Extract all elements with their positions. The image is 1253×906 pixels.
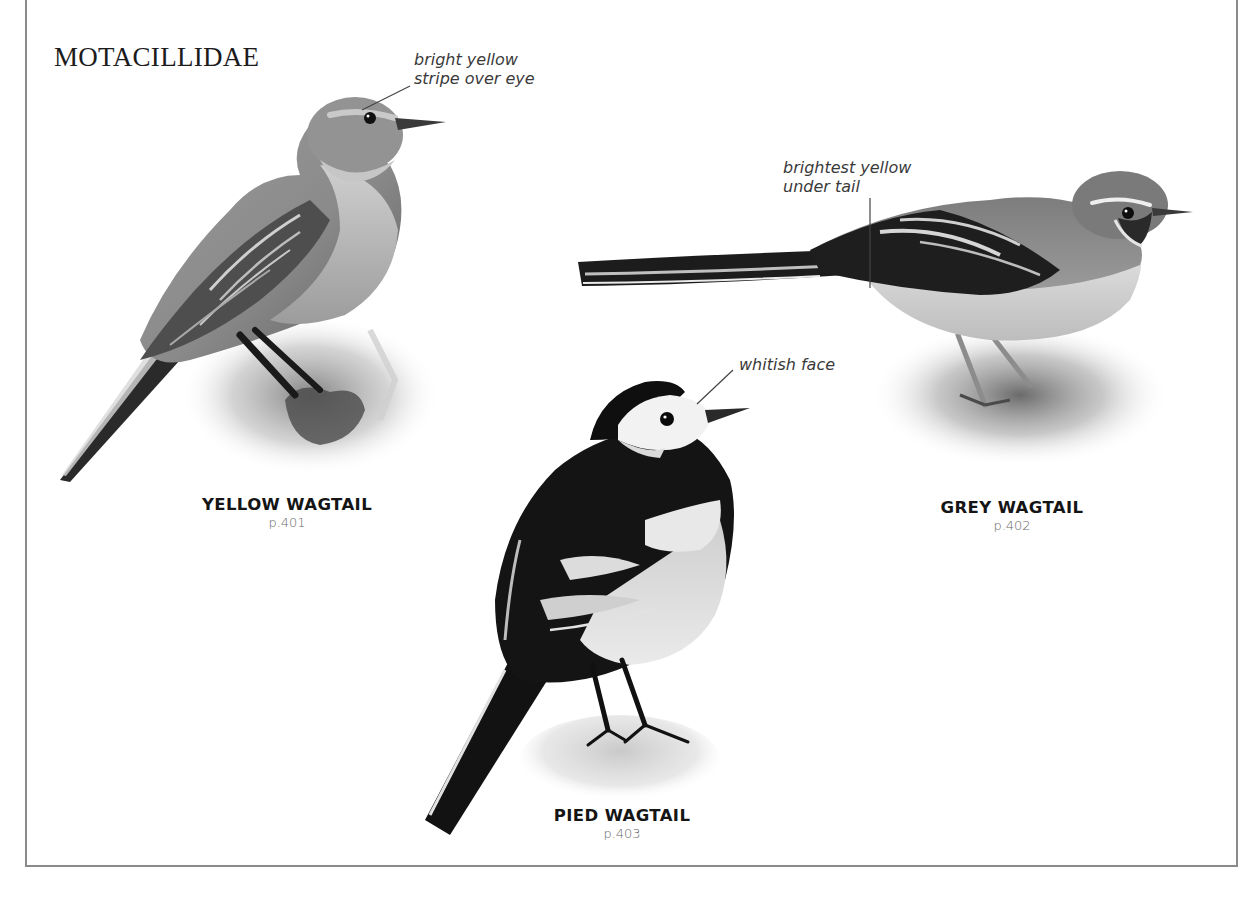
yellow-wagtail-annotation: bright yellow stripe over eye	[414, 50, 535, 88]
annotation-line: stripe over eye	[414, 69, 535, 88]
annotation-line: brightest yellow	[783, 158, 911, 177]
species-page-ref[interactable]: p.402	[892, 518, 1132, 534]
species-page-ref[interactable]: p.403	[502, 826, 742, 842]
species-name: GREY WAGTAIL	[892, 498, 1132, 518]
yellow-wagtail-illustration	[60, 86, 446, 482]
species-name: PIED WAGTAIL	[502, 806, 742, 826]
species-name: YELLOW WAGTAIL	[167, 495, 407, 515]
annotation-line: whitish face	[739, 355, 835, 374]
annotation-line: bright yellow	[414, 50, 535, 69]
annotation-line: under tail	[783, 177, 911, 196]
species-page-ref[interactable]: p.401	[167, 515, 407, 531]
pied-wagtail-annotation: whitish face	[739, 355, 835, 374]
pied-wagtail-caption: PIED WAGTAIL p.403	[502, 806, 742, 842]
grey-wagtail-annotation: brightest yellow under tail	[783, 158, 911, 196]
pied-wagtail-illustration	[425, 370, 750, 835]
bird-illustrations	[0, 0, 1253, 906]
grey-wagtail-caption: GREY WAGTAIL p.402	[892, 498, 1132, 534]
annotation-leader-line	[697, 370, 733, 404]
yellow-wagtail-caption: YELLOW WAGTAIL p.401	[167, 495, 407, 531]
